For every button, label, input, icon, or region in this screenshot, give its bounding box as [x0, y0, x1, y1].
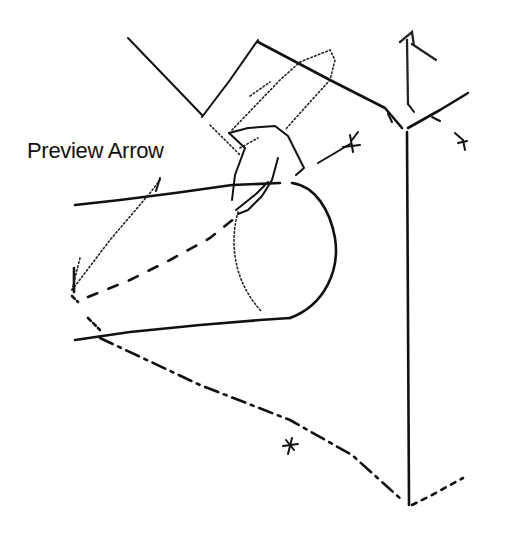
leader-line — [128, 38, 202, 115]
dimension-ticks — [283, 114, 467, 454]
preview-arrow-label: Preview Arrow — [27, 138, 164, 164]
preview-arrow — [210, 50, 335, 214]
cylinder — [72, 180, 336, 340]
cad-illustration: Preview Arrow — [0, 0, 512, 550]
drawing-svg — [0, 0, 512, 550]
triad-axes — [400, 32, 436, 112]
